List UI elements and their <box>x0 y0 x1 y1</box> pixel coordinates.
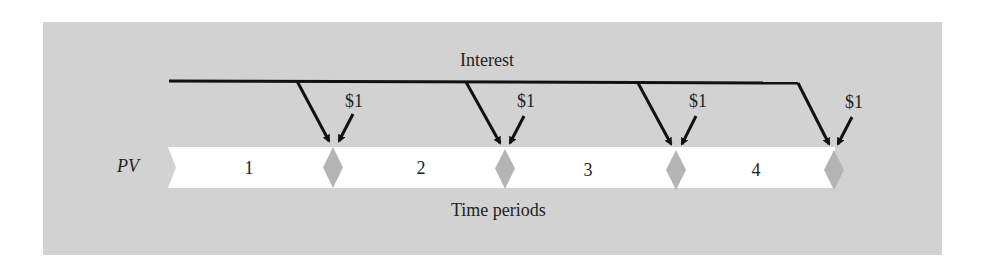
pv-label: PV <box>117 156 139 177</box>
period-label-3: 3 <box>584 160 593 181</box>
period-label-4: 4 <box>752 160 761 181</box>
interest-arrow-3 <box>638 83 671 144</box>
payment-label-2: $1 <box>517 91 535 112</box>
payment-label-1: $1 <box>345 91 363 112</box>
payment-label-4: $1 <box>845 92 863 113</box>
interest-arrow-2 <box>466 82 500 143</box>
payment-arrow-3 <box>682 116 696 144</box>
payment-label-3: $1 <box>689 91 707 112</box>
payment-arrow-4 <box>838 117 852 144</box>
period-label-1: 1 <box>245 158 254 179</box>
payment-arrow-2 <box>510 116 524 143</box>
time-periods-label: Time periods <box>451 200 546 221</box>
interest-arrow-4 <box>798 83 829 144</box>
payment-arrow-1 <box>339 114 353 141</box>
period-label-2: 2 <box>417 158 426 179</box>
interest-arrow-1 <box>297 81 329 141</box>
annuity-timeline-graphic <box>0 0 995 273</box>
interest-line <box>169 81 798 83</box>
interest-label: Interest <box>460 50 514 71</box>
